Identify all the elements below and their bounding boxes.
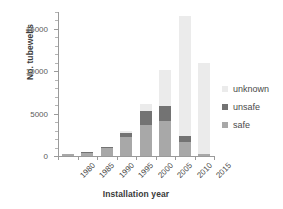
y-axis-minor-tick: [55, 37, 58, 38]
x-axis-tick-label: 2005: [175, 161, 194, 180]
bar-1980[interactable]: [62, 154, 74, 156]
bar-segment-safe: [101, 148, 113, 156]
x-axis-tick-label: 1980: [78, 161, 97, 180]
y-axis-major-tick: 10000: [54, 71, 59, 72]
x-axis-tick: [214, 156, 215, 160]
bar-segment-unsafe: [159, 106, 171, 121]
bar-1990[interactable]: [101, 147, 113, 156]
x-axis-tick-label: 1990: [117, 161, 136, 180]
bar-segment-unknown: [140, 104, 152, 112]
y-axis-minor-tick: [55, 122, 58, 123]
bar-segment-safe: [159, 121, 171, 156]
x-axis-tick: [156, 156, 157, 160]
x-axis-tick-label: 2015: [214, 161, 233, 180]
y-axis-major-tick: 5000: [54, 114, 59, 115]
x-axis-tick: [136, 156, 137, 160]
y-axis-tick-label: 10000: [26, 67, 48, 76]
legend-item-unknown[interactable]: unknown: [222, 80, 282, 98]
x-axis-tick: [117, 156, 118, 160]
y-axis-minor-tick: [55, 54, 58, 55]
x-axis-tick-label: 2000: [156, 161, 175, 180]
x-axis-tick-label: 1985: [97, 161, 116, 180]
x-axis-tick: [97, 156, 98, 160]
y-axis-minor-tick: [55, 148, 58, 149]
x-axis-tick: [58, 156, 59, 160]
legend-label: unsafe: [233, 102, 260, 112]
x-axis-tick: [175, 156, 176, 160]
x-axis-title: Installation year: [58, 189, 214, 199]
bar-segment-safe: [198, 154, 210, 156]
bar-2000[interactable]: [140, 104, 152, 156]
x-axis-tick: [78, 156, 79, 160]
y-axis-minor-tick: [55, 97, 58, 98]
legend-swatch-safe: [222, 122, 228, 128]
bar-segment-unknown: [198, 63, 210, 154]
y-axis-minor-tick: [55, 12, 58, 13]
bar-2005[interactable]: [159, 70, 171, 156]
y-axis-minor-tick: [55, 80, 58, 81]
bar-2015[interactable]: [198, 63, 210, 156]
y-axis-minor-tick: [55, 105, 58, 106]
x-axis-tick: [195, 156, 196, 160]
bar-segment-safe: [120, 137, 132, 156]
bar-segment-safe: [81, 153, 93, 156]
y-axis-minor-tick: [55, 20, 58, 21]
y-axis-minor-tick: [55, 139, 58, 140]
legend-item-unsafe[interactable]: unsafe: [222, 98, 282, 116]
legend-label: safe: [233, 120, 250, 130]
y-axis-major-tick: 15000: [54, 29, 59, 30]
legend-swatch-unsafe: [222, 104, 228, 110]
y-axis-title: No. tubewells: [25, 0, 39, 112]
y-axis-minor-tick: [55, 46, 58, 47]
y-axis-tick-label: 15000: [26, 24, 48, 33]
y-axis-minor-tick: [55, 63, 58, 64]
x-axis-tick-label: 2010: [195, 161, 214, 180]
bar-segment-unsafe: [140, 111, 152, 125]
bar-segment-safe: [140, 125, 152, 156]
x-axis-tick-label: 1995: [136, 161, 155, 180]
legend: unknownunsafesafe: [222, 80, 282, 134]
tubewell-installation-chart: No. tubewells 050001000015000 1980198519…: [0, 0, 283, 209]
y-axis-tick-label: 5000: [30, 109, 48, 118]
bar-segment-unknown: [179, 16, 191, 135]
y-axis-line: [58, 12, 59, 156]
bar-2010[interactable]: [179, 16, 191, 156]
y-axis-minor-tick: [55, 88, 58, 89]
legend-swatch-unknown: [222, 86, 228, 92]
bar-segment-unknown: [159, 70, 171, 106]
y-axis-tick-label: 0: [44, 152, 48, 161]
legend-item-safe[interactable]: safe: [222, 116, 282, 134]
legend-label: unknown: [233, 84, 269, 94]
bar-1995[interactable]: [120, 131, 132, 156]
bar-1985[interactable]: [81, 152, 93, 156]
bar-segment-safe: [179, 142, 191, 156]
bar-segment-safe: [62, 154, 74, 156]
plot-area: 050001000015000: [58, 12, 214, 156]
y-axis-minor-tick: [55, 131, 58, 132]
